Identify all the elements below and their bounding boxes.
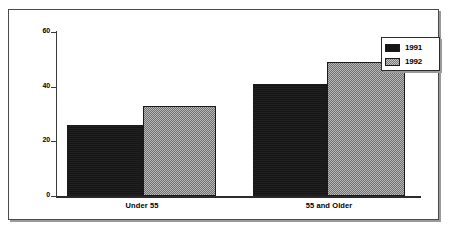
y-tick-0: 0 (0, 196, 50, 197)
y-tick-label-0: 0 (14, 191, 50, 198)
x-category-label-55-and-older: 55 and Older (289, 201, 369, 210)
y-tick-mark-40 (51, 87, 57, 88)
bar-under-55-1992 (143, 106, 216, 196)
bar-55-and-older-1991 (253, 84, 327, 196)
chart-legend: 1991 1992 (381, 37, 440, 71)
bar-55-and-older-1992 (327, 62, 405, 196)
legend-swatch-1991-icon (385, 44, 400, 52)
legend-swatch-1992-icon (385, 58, 400, 66)
legend-item-1992: 1992 (385, 55, 422, 68)
y-tick-40: 40 (0, 87, 50, 88)
chart-figure: 60 40 20 0 Under 55 55 and Older (0, 0, 449, 229)
y-tick-label-60: 60 (14, 27, 50, 34)
y-tick-label-40: 40 (14, 82, 50, 89)
x-axis-line (56, 196, 421, 198)
y-tick-mark-60 (51, 32, 57, 33)
y-tick-60: 60 (0, 32, 50, 33)
y-tick-20: 20 (0, 141, 50, 142)
x-category-label-under-55: Under 55 (102, 201, 182, 210)
y-tick-mark-20 (51, 141, 57, 142)
y-axis-line (56, 31, 57, 197)
y-tick-mark-0 (51, 196, 57, 197)
legend-item-1991: 1991 (385, 41, 422, 54)
plot-area: 60 40 20 0 Under 55 55 and Older (0, 0, 449, 229)
y-tick-label-20: 20 (14, 136, 50, 143)
legend-label-1992: 1992 (405, 57, 422, 66)
bar-under-55-1991 (67, 125, 143, 196)
legend-label-1991: 1991 (405, 43, 422, 52)
